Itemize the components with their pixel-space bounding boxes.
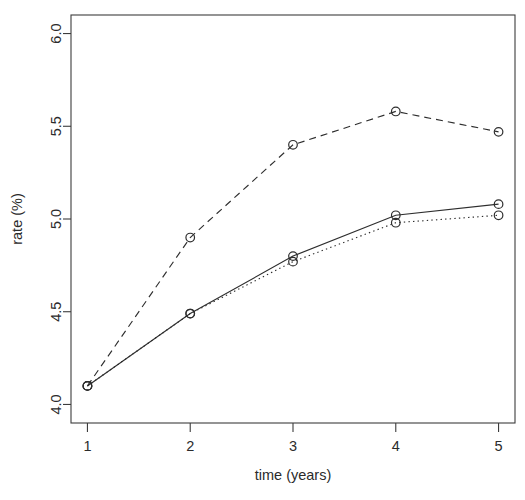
series-dashed <box>83 107 503 390</box>
y-tick-label: 6.0 <box>48 23 64 43</box>
plot-area-box <box>71 15 515 423</box>
series-dotted <box>83 211 503 390</box>
y-tick-label: 5.0 <box>48 209 64 229</box>
y-axis-ticks: 4.04.55.05.56.0 <box>48 23 71 414</box>
data-point-marker <box>494 211 503 220</box>
chart-container: 4.04.55.05.56.0 12345 time (years) rate … <box>0 0 525 500</box>
y-tick-label: 4.5 <box>48 302 64 322</box>
x-tick-label: 1 <box>83 438 91 454</box>
y-tick-label: 5.5 <box>48 116 64 136</box>
x-tick-label: 3 <box>289 438 297 454</box>
series-line-solid <box>87 204 498 386</box>
x-axis-ticks: 12345 <box>83 423 502 454</box>
y-tick-label: 4.0 <box>48 394 64 414</box>
data-point-marker <box>83 382 92 391</box>
data-series-layer <box>83 107 503 390</box>
x-axis-title: time (years) <box>255 467 332 483</box>
series-line-dotted <box>87 215 498 386</box>
series-line-dashed <box>87 111 498 385</box>
y-axis-title: rate (%) <box>9 193 25 245</box>
data-point-marker <box>289 257 298 266</box>
x-tick-label: 2 <box>186 438 194 454</box>
x-tick-label: 4 <box>392 438 400 454</box>
series-solid <box>83 200 503 390</box>
rate-vs-time-line-chart: 4.04.55.05.56.0 12345 time (years) rate … <box>0 0 525 500</box>
x-tick-label: 5 <box>495 438 503 454</box>
